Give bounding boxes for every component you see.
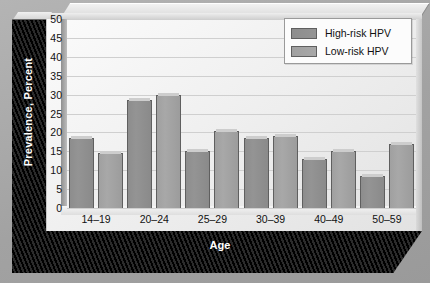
legend-item-high-risk: High-risk HPV — [291, 24, 405, 42]
legend-swatch-icon-low-risk — [291, 46, 317, 57]
bar-top-face — [333, 149, 354, 152]
bar-group — [185, 19, 239, 208]
y-tick-label: 0 — [40, 202, 62, 214]
y-tick-label: 25 — [40, 108, 62, 120]
x-tick-label: 14–19 — [67, 213, 125, 225]
y-tick-label: 40 — [40, 51, 62, 63]
bar — [156, 95, 181, 208]
bar-top-face — [304, 157, 325, 160]
bar-top-face — [275, 134, 296, 137]
bar-top-face — [71, 136, 92, 139]
y-tick-label: 30 — [40, 89, 62, 101]
bar — [185, 151, 210, 208]
bar — [302, 159, 327, 208]
bar-top-face — [100, 151, 121, 154]
x-tick-label: 20–24 — [125, 213, 183, 225]
x-axis-title: Age — [120, 239, 320, 251]
bar — [98, 153, 123, 208]
bar-group — [127, 19, 181, 208]
legend-label-high-risk: High-risk HPV — [325, 27, 391, 39]
bar-top-face — [391, 142, 412, 145]
x-tick-label: 50–59 — [358, 213, 416, 225]
x-tick-label: 40–49 — [300, 213, 358, 225]
x-tick-label: 25–29 — [183, 213, 241, 225]
bar — [244, 138, 269, 208]
y-tick-label: 10 — [40, 164, 62, 176]
bar — [214, 131, 239, 208]
gridline — [67, 208, 416, 209]
legend-label-low-risk: Low-risk HPV — [325, 45, 389, 57]
y-tick-label: 45 — [40, 32, 62, 44]
legend-item-low-risk: Low-risk HPV — [291, 42, 405, 60]
bar-top-face — [158, 93, 179, 96]
plot-area-right-shading — [416, 19, 422, 231]
bar — [360, 176, 385, 208]
chart-screenshot: Prevalence, Percent 50454035302520151050… — [0, 0, 430, 283]
legend: High-risk HPV Low-risk HPV — [284, 18, 412, 64]
y-axis-title: Prevalence, Percent — [22, 32, 34, 192]
bar-top-face — [187, 149, 208, 152]
x-tick-label: 30–39 — [242, 213, 300, 225]
x-axis-category-labels: 14–1920–2425–2930–3940–4950–59 — [67, 213, 416, 229]
bar — [389, 144, 414, 208]
y-tick-label: 35 — [40, 70, 62, 82]
y-tick-label: 20 — [40, 126, 62, 138]
bar — [331, 151, 356, 208]
y-tick-label: 50 — [40, 13, 62, 25]
y-tick-label: 15 — [40, 145, 62, 157]
bar-group — [69, 19, 123, 208]
bar-top-face — [246, 136, 267, 139]
bar — [127, 100, 152, 208]
legend-swatch-icon-high-risk — [291, 28, 317, 39]
bar-top-face — [129, 98, 150, 101]
bar — [273, 136, 298, 208]
frame-floor — [12, 231, 422, 273]
y-tick-label: 5 — [40, 183, 62, 195]
bar-top-face — [362, 174, 383, 177]
bar-top-face — [216, 129, 237, 132]
bar — [69, 138, 94, 208]
